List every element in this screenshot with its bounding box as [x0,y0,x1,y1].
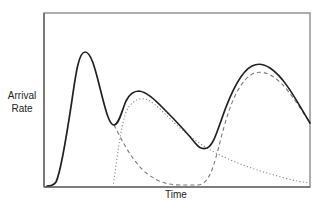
x-axis-label: Time [165,189,187,200]
second-wave-curve [113,99,309,187]
total-arrival-rate-curve [47,52,310,186]
arrival-rate-chart: Arrival Rate Time [0,0,326,208]
y-axis-label-line1: Arrival [8,90,36,101]
y-axis-label-line2: Rate [11,103,33,114]
plot-frame [44,13,310,187]
first-third-wave-curve [114,72,310,185]
